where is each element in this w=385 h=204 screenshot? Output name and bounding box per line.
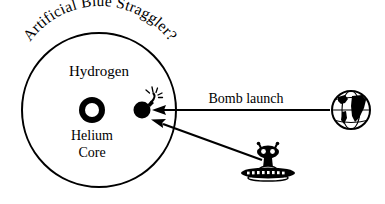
diagram-canvas: Artificial Blue Straggler? Hydrogen Heli…: [0, 0, 385, 204]
earth-to-bomb-arrow-head: [152, 105, 166, 115]
alien-antenna-tip-right: [276, 142, 280, 146]
bomb-fuse: [152, 94, 155, 103]
alien-antenna-tip-left: [257, 142, 261, 146]
diagram-title-textpath: Artificial Blue Straggler?: [19, 0, 181, 44]
alien-eye-right: [270, 149, 275, 154]
diagram-title-arc: Artificial Blue Straggler?: [19, 0, 181, 44]
helium-core-inner: [85, 103, 99, 117]
alien-to-bomb-arrow-shaft: [163, 124, 262, 160]
alien-head: [257, 146, 279, 159]
bomb-launch-label: Bomb launch: [208, 91, 283, 106]
helium-core-label-line1: Helium: [71, 128, 113, 143]
earth-to-bomb-arrow: [152, 105, 330, 115]
artificial-blue-straggler-diagram: Artificial Blue Straggler? Hydrogen Heli…: [0, 0, 385, 204]
bomb-icon: [134, 87, 163, 119]
earth-globe-icon: [332, 91, 370, 129]
helium-core-label-line2: Core: [78, 145, 105, 160]
hydrogen-label: Hydrogen: [69, 63, 129, 79]
alien-ufo-icon: [241, 142, 295, 181]
alien-to-bomb-arrow: [151, 119, 262, 160]
helium-core-ring: [79, 97, 105, 123]
alien-eye-left: [261, 149, 266, 154]
